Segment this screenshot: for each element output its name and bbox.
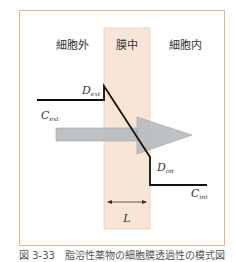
region-label-membrane: 膜中 bbox=[116, 39, 138, 52]
label-thickness: L bbox=[122, 212, 130, 225]
region-label-extracellular: 細胞外 bbox=[56, 39, 89, 52]
label-d-ext: Dext bbox=[81, 84, 101, 97]
figure-caption: 図 3-33 脂溶性薬物の細胞膜透過性の模式図 bbox=[19, 250, 229, 262]
region-label-intracellular: 細胞内 bbox=[169, 38, 202, 52]
label-c-int: Cint bbox=[191, 187, 208, 200]
label-d-int: Dint bbox=[156, 161, 175, 174]
label-c-ext: Cext bbox=[41, 109, 59, 122]
